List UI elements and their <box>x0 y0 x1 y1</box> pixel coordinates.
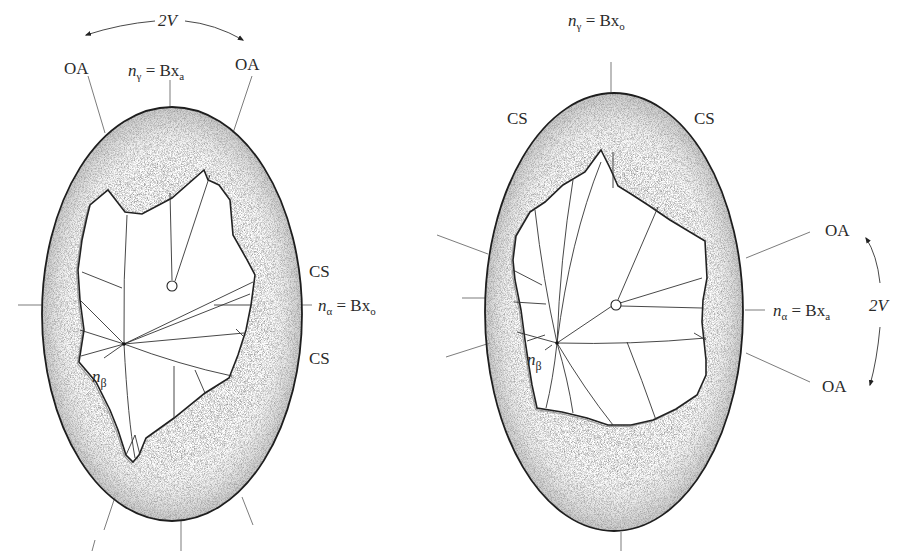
right-oa-label-lower: OA <box>822 377 847 396</box>
left-n-gamma-label: nγ = Bxa <box>128 61 184 82</box>
right-cs-label-left: CS <box>507 109 528 128</box>
right-2v-arrow-down <box>870 327 880 385</box>
left-2v-label: 2V <box>158 11 180 30</box>
right-cs-label-right: CS <box>694 109 715 128</box>
right-obtuse-bisectrix-point <box>611 300 621 310</box>
left-2v-arrow-right <box>185 21 243 40</box>
left-panel: 2V OA OA nγ = Bxa CS nα = Bxo CS nβ <box>18 11 376 551</box>
left-oa-label-left: OA <box>64 59 89 78</box>
right-n-beta-point <box>555 341 559 345</box>
left-2v-arrow-left <box>86 21 155 35</box>
figure-canvas: 2V OA OA nγ = Bxa CS nα = Bxo CS nβ <box>0 0 905 551</box>
left-oa-label-right: OA <box>235 55 260 74</box>
right-panel: nγ = Bxo CS CS OA nα = Bxa 2V OA nβ <box>437 11 891 551</box>
right-n-alpha-label: nα = Bxa <box>773 301 830 322</box>
right-n-gamma-label: nγ = Bxo <box>568 11 625 32</box>
left-cs-label-upper: CS <box>309 262 330 281</box>
right-oa-label-upper: OA <box>825 221 850 240</box>
right-2v-label: 2V <box>869 296 891 315</box>
left-acute-bisectrix-point <box>167 281 177 291</box>
right-2v-arrow-up <box>866 238 880 283</box>
left-cs-label-lower: CS <box>309 349 330 368</box>
left-n-alpha-label: nα = Bxo <box>318 296 376 317</box>
left-n-beta-point <box>122 342 126 346</box>
